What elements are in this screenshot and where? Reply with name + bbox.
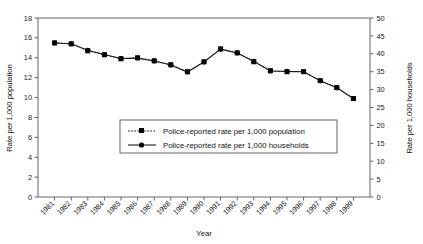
data-point-population: [69, 41, 74, 46]
y-tick-label-right: 50: [377, 14, 385, 23]
data-point-population: [268, 68, 273, 73]
data-point-population: [85, 48, 90, 53]
y-tick-label-right: 30: [377, 85, 385, 94]
y-tick-label-left: 6: [28, 133, 32, 142]
data-point-population: [318, 78, 323, 83]
y-tick-label-left: 2: [28, 173, 32, 182]
y-tick-label-right: 15: [377, 139, 385, 148]
y-tick-label-left: 18: [24, 14, 32, 23]
data-point-population: [301, 69, 306, 74]
y-tick-label-right: 0: [377, 193, 381, 202]
y-tick-label-left: 10: [24, 93, 32, 102]
data-point-population: [102, 52, 107, 57]
data-point-population: [202, 59, 207, 64]
data-point-population: [185, 69, 190, 74]
legend-square-marker-icon: [139, 128, 144, 133]
y-tick-label-right: 20: [377, 121, 385, 130]
y-tick-label-right: 35: [377, 67, 385, 76]
y-tick-label-left: 14: [24, 53, 32, 62]
y-tick-label-right: 25: [377, 103, 385, 112]
chart-container: 024681012141618 05101520253035404550 198…: [0, 0, 423, 244]
data-point-population: [334, 85, 339, 90]
y-tick-label-left: 0: [28, 193, 32, 202]
y-tick-label-left: 8: [28, 113, 32, 122]
data-point-population: [251, 59, 256, 64]
y-axis-right-title: Rate per 1,000 households: [405, 62, 414, 153]
y-tick-label-left: 16: [24, 33, 32, 42]
y-tick-label-left: 12: [24, 73, 32, 82]
legend-circle-marker-icon: [139, 142, 144, 147]
data-point-population: [152, 58, 157, 63]
y-tick-label-right: 40: [377, 49, 385, 58]
data-point-population: [235, 50, 240, 55]
data-point-population: [135, 55, 140, 60]
data-point-population: [52, 40, 57, 45]
y-tick-label-right: 5: [377, 175, 381, 184]
y-tick-label-left: 4: [28, 153, 32, 162]
x-axis-title: Year: [196, 229, 212, 238]
chart-legend: Police-reported rate per 1,000 populatio…: [120, 120, 337, 153]
data-point-population: [351, 96, 356, 101]
data-point-population: [285, 69, 290, 74]
legend-label-households: Police-reported rate per 1,000 household…: [163, 141, 309, 150]
data-point-population: [119, 56, 124, 61]
y-axis-left-title: Rate per 1,000 population: [5, 64, 14, 151]
y-tick-label-right: 45: [377, 32, 385, 41]
y-tick-label-right: 10: [377, 157, 385, 166]
line-chart: 024681012141618 05101520253035404550 198…: [0, 0, 423, 244]
data-point-population: [218, 46, 223, 51]
legend-label-population: Police-reported rate per 1,000 populatio…: [163, 127, 305, 136]
data-point-population: [168, 62, 173, 67]
